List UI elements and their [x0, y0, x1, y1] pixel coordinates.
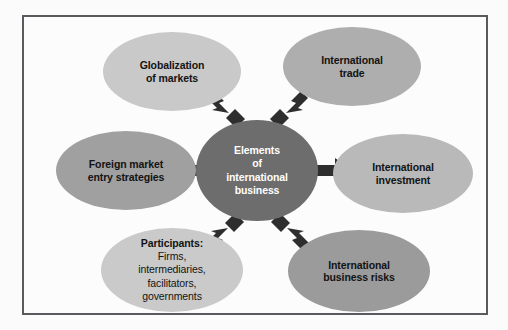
node-international-investment[interactable]: International investment — [333, 134, 473, 213]
node-international-business-risks-label: International business risks — [317, 259, 401, 284]
node-international-investment-label: International investment — [366, 161, 440, 186]
node-participants-heading: Participants: — [138, 237, 205, 250]
node-foreign-market-entry-strategies[interactable]: Foreign market entry strategies — [56, 131, 196, 210]
node-participants[interactable]: Participants: Firms, intermediaries, fac… — [101, 228, 243, 312]
node-center-label: Elements of international business — [220, 144, 294, 197]
node-international-business-risks[interactable]: International business risks — [288, 230, 430, 312]
diagram-canvas: Globalization of markets International t… — [0, 0, 508, 330]
node-international-trade[interactable]: International trade — [283, 27, 421, 106]
node-foreign-market-entry-strategies-label: Foreign market entry strategies — [82, 158, 171, 183]
node-globalization-of-markets-label: Globalization of markets — [134, 59, 211, 84]
node-elements-of-international-business[interactable]: Elements of international business — [196, 120, 318, 221]
node-participants-label: Participants: Firms, intermediaries, fac… — [132, 237, 211, 303]
node-international-trade-label: International trade — [315, 54, 389, 79]
node-globalization-of-markets[interactable]: Globalization of markets — [103, 32, 241, 111]
